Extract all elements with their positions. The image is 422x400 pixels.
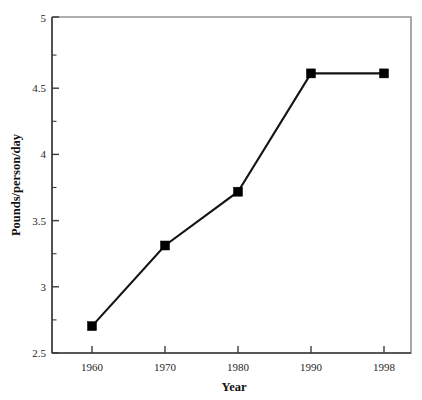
x-axis-tick-labels: 1960 1970 1980 1990 1998 — [81, 361, 396, 373]
x-tick-label-1980: 1980 — [227, 361, 250, 373]
x-tick-label-1990: 1990 — [300, 361, 323, 373]
y-tick-label-4: 4 — [41, 148, 47, 160]
plot-canvas: 2.5 3 3.5 4 4.5 5 1960 1970 1980 1990 19… — [0, 0, 422, 400]
data-point-1990 — [307, 69, 316, 78]
data-point-1998 — [380, 69, 389, 78]
x-axis-title: Year — [222, 380, 247, 394]
x-tick-label-1998: 1998 — [373, 361, 396, 373]
x-axis-ticks — [92, 346, 384, 353]
data-series-pounds-per-person-per-day — [88, 69, 389, 331]
y-axis-major-ticks — [52, 17, 59, 353]
x-tick-label-1960: 1960 — [81, 361, 104, 373]
y-tick-label-3-5: 3.5 — [32, 215, 46, 227]
y-tick-label-5: 5 — [41, 12, 47, 24]
data-point-1970 — [161, 241, 170, 250]
y-axis-title: Pounds/person/day — [9, 133, 23, 236]
axis-frame — [52, 17, 411, 353]
y-tick-label-2-5: 2.5 — [32, 347, 46, 359]
series-line-path — [92, 73, 384, 326]
y-tick-label-3: 3 — [41, 281, 47, 293]
x-tick-label-1970: 1970 — [154, 361, 177, 373]
y-tick-label-4-5: 4.5 — [32, 82, 46, 94]
data-point-1960 — [88, 322, 97, 331]
data-point-1980 — [234, 187, 243, 196]
plot-border — [52, 17, 411, 353]
line-chart: 2.5 3 3.5 4 4.5 5 1960 1970 1980 1990 19… — [0, 0, 422, 400]
y-axis-tick-labels: 2.5 3 3.5 4 4.5 5 — [32, 12, 46, 360]
